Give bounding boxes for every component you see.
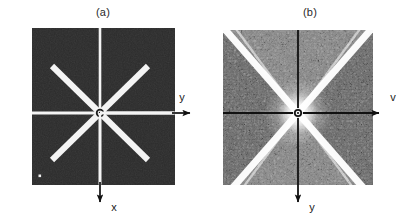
- panel-b-origin-marker: [293, 108, 303, 118]
- panel-a-corner-speck: [39, 175, 42, 178]
- panel-a-axis-h-label: y: [179, 91, 185, 103]
- panel-b: (b): [207, 0, 413, 222]
- panel-b-plot: v y: [207, 0, 413, 222]
- panel-a-axis-v-label: x: [111, 201, 117, 213]
- panel-b-axis-v-label: y: [309, 201, 315, 213]
- figure-container: (a): [0, 0, 413, 222]
- panel-a-plot: y x: [0, 0, 206, 222]
- panel-b-axis-h-label: v: [390, 91, 396, 103]
- panel-a: (a): [0, 0, 206, 222]
